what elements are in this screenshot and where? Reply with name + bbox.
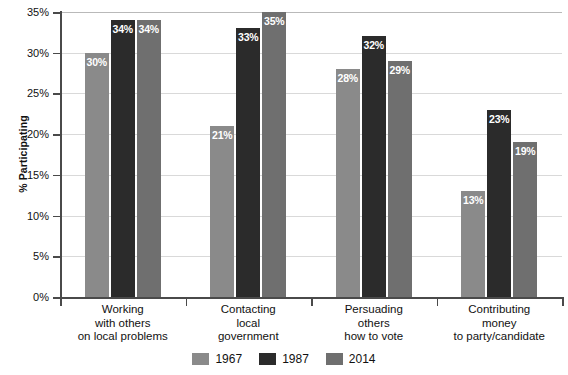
bar-value-label: 34% (111, 23, 135, 35)
gridline (60, 93, 562, 94)
category-label-line: Contributing (437, 303, 563, 317)
gridline (60, 53, 562, 54)
bar: 29% (388, 61, 412, 297)
bar-value-label: 33% (236, 31, 260, 43)
bar-value-label: 35% (262, 15, 286, 27)
legend-item: 1967 (192, 352, 242, 366)
y-tick-label: 0% (0, 291, 49, 303)
y-tick-mark (53, 12, 61, 14)
legend-swatch (192, 353, 209, 365)
bar: 28% (336, 69, 360, 297)
category-label-line: money (437, 317, 563, 331)
legend-swatch (259, 353, 276, 365)
y-tick-label: 30% (0, 47, 49, 59)
legend-label: 1967 (215, 352, 242, 366)
bar-value-label: 32% (362, 39, 386, 51)
gridline (60, 12, 562, 13)
category-label-line: on local problems (60, 330, 186, 344)
bar: 23% (487, 110, 511, 297)
category-label-line: local (186, 317, 312, 331)
legend-item: 1987 (259, 352, 309, 366)
bar: 32% (362, 36, 386, 297)
category-label-line: Working (60, 303, 186, 317)
x-axis-separator (562, 297, 564, 306)
category-label-line: to party/candidate (437, 330, 563, 344)
y-tick-label: 5% (0, 250, 49, 262)
chart-legend: 196719872014 (0, 352, 568, 366)
bar: 34% (137, 20, 161, 297)
x-axis-category-label: Workingwith otherson local problems (60, 303, 186, 344)
bar: 19% (513, 142, 537, 297)
category-label-line: Contacting (186, 303, 312, 317)
legend-label: 2014 (349, 352, 376, 366)
category-label-line: Persuading (311, 303, 437, 317)
category-label-line: with others (60, 317, 186, 331)
bar-value-label: 13% (461, 194, 485, 206)
plot-area: 30%21%28%13%34%33%32%23%34%35%29%19% (60, 12, 562, 297)
bar: 21% (210, 126, 234, 297)
legend-label: 1987 (282, 352, 309, 366)
bar-value-label: 34% (137, 23, 161, 35)
y-tick-label: 35% (0, 6, 49, 18)
y-axis-title: % Participating (17, 84, 29, 224)
bar: 34% (111, 20, 135, 297)
x-axis-category-label: Contactinglocalgovernment (186, 303, 312, 344)
y-tick-label: 20% (0, 128, 49, 140)
bar: 33% (236, 28, 260, 297)
y-tick-mark (53, 93, 61, 95)
category-label-line: how to vote (311, 330, 437, 344)
y-tick-mark (53, 134, 61, 136)
legend-item: 2014 (326, 352, 376, 366)
y-tick-label: 15% (0, 169, 49, 181)
bar-chart: % Participating 30%21%28%13%34%33%32%23%… (0, 0, 568, 375)
bar-value-label: 29% (388, 64, 412, 76)
bar-value-label: 19% (513, 145, 537, 157)
bar-value-label: 28% (336, 72, 360, 84)
bar-value-label: 21% (210, 129, 234, 141)
category-label-line: others (311, 317, 437, 331)
bar: 13% (461, 191, 485, 297)
bar: 30% (85, 53, 109, 297)
y-tick-mark (53, 175, 61, 177)
legend-swatch (326, 353, 343, 365)
y-tick-label: 10% (0, 210, 49, 222)
y-tick-mark (53, 216, 61, 218)
bar: 35% (262, 12, 286, 297)
x-axis-category-label: Contributingmoneyto party/candidate (437, 303, 563, 344)
y-tick-label: 25% (0, 87, 49, 99)
category-label-line: government (186, 330, 312, 344)
x-axis-category-label: Persuadingothershow to vote (311, 303, 437, 344)
bar-value-label: 30% (85, 56, 109, 68)
y-tick-mark (53, 53, 61, 55)
y-tick-mark (53, 256, 61, 258)
bar-value-label: 23% (487, 113, 511, 125)
